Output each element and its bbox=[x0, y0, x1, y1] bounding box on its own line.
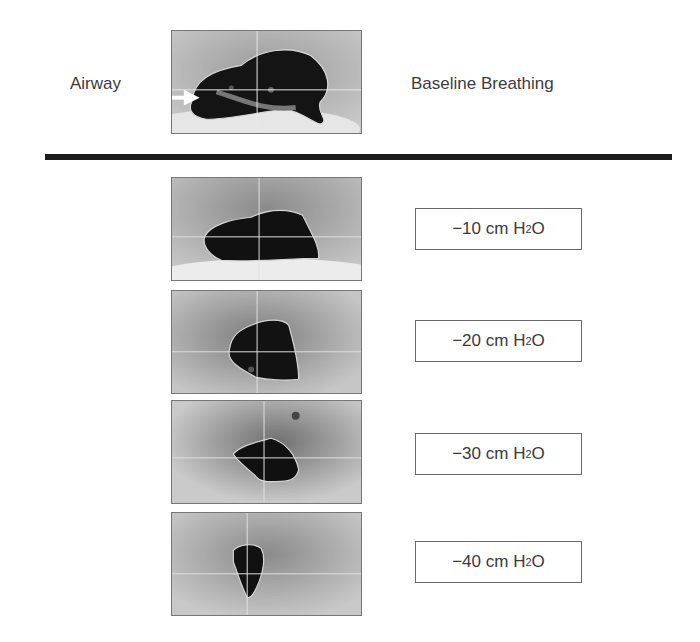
pressure-label-minus-40: −40 cm H2O bbox=[415, 541, 582, 583]
pressure-label-minus-20: −20 cm H2O bbox=[415, 320, 582, 362]
pressure-unit: cm H bbox=[486, 444, 526, 464]
pressure-unit-suffix: O bbox=[532, 331, 545, 351]
section-divider bbox=[45, 154, 672, 160]
pressure-unit: cm H bbox=[486, 552, 526, 572]
pressure-unit-suffix: O bbox=[532, 552, 545, 572]
airway-image-minus-20 bbox=[171, 290, 362, 394]
pressure-unit-suffix: O bbox=[532, 444, 545, 464]
airway-image-baseline bbox=[171, 30, 362, 134]
pressure-unit-suffix: O bbox=[532, 219, 545, 239]
pressure-value: −10 bbox=[452, 219, 481, 239]
airway-image-minus-30 bbox=[171, 400, 362, 504]
pressure-unit: cm H bbox=[486, 331, 526, 351]
pressure-label-minus-10: −10 cm H2O bbox=[415, 208, 582, 250]
airway-image-minus-40 bbox=[171, 512, 362, 616]
airway-image-minus-10 bbox=[171, 177, 362, 281]
pressure-value: −20 bbox=[452, 331, 481, 351]
baseline-breathing-label: Baseline Breathing bbox=[411, 74, 554, 94]
pressure-value: −30 bbox=[452, 444, 481, 464]
pressure-unit: cm H bbox=[486, 219, 526, 239]
pressure-label-minus-30: −30 cm H2O bbox=[415, 433, 582, 475]
pressure-value: −40 bbox=[452, 552, 481, 572]
airway-row-label: Airway bbox=[70, 74, 121, 94]
